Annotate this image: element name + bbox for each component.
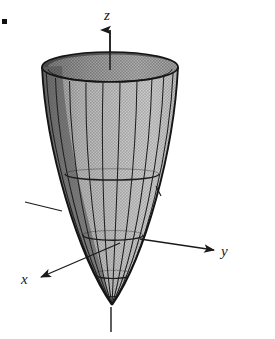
paraboloid-figure: z y x	[0, 0, 275, 339]
figure-canvas	[0, 0, 275, 339]
y-axis-back	[25, 202, 62, 211]
paraboloid-surface	[42, 52, 178, 305]
y-axis-front	[140, 239, 214, 250]
axis-label-z: z	[104, 8, 110, 23]
axis-label-x: x	[21, 272, 28, 287]
axis-label-y: y	[221, 244, 228, 259]
